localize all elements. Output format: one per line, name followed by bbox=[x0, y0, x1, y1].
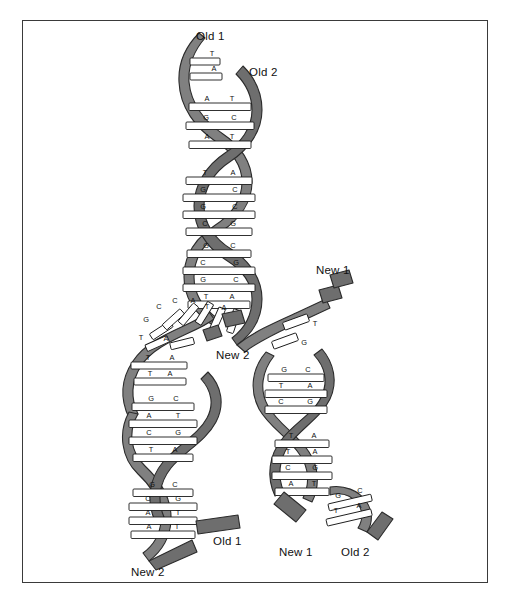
svg-text:G: G bbox=[200, 185, 206, 194]
svg-text:A: A bbox=[168, 369, 173, 378]
svg-text:A: A bbox=[205, 132, 210, 141]
svg-text:G: G bbox=[200, 275, 206, 284]
svg-text:T: T bbox=[204, 292, 209, 301]
svg-text:A: A bbox=[289, 479, 294, 488]
svg-text:A: A bbox=[146, 508, 151, 517]
svg-text:C: C bbox=[202, 219, 208, 228]
svg-text:C: C bbox=[145, 494, 151, 503]
label-new1-bottom: New 1 bbox=[279, 546, 313, 558]
svg-text:T: T bbox=[230, 94, 235, 103]
svg-text:A: A bbox=[231, 168, 236, 177]
svg-text:A: A bbox=[212, 64, 217, 73]
svg-text:C: C bbox=[230, 241, 236, 250]
label-old2-top: Old 2 bbox=[249, 66, 278, 78]
svg-text:A: A bbox=[170, 353, 175, 362]
svg-text:T: T bbox=[176, 508, 181, 517]
svg-text:C: C bbox=[156, 302, 162, 311]
svg-text:T: T bbox=[176, 411, 181, 420]
svg-text:T: T bbox=[175, 522, 180, 531]
svg-text:A: A bbox=[308, 381, 313, 390]
dna-replication-diagram: .rib { fill:#808080; stroke:#2b2b2b; str… bbox=[0, 0, 511, 616]
svg-text:G: G bbox=[335, 491, 341, 500]
svg-text:G: G bbox=[301, 338, 307, 347]
svg-text:A: A bbox=[312, 431, 317, 440]
svg-text:T: T bbox=[149, 445, 154, 454]
svg-text:C: C bbox=[172, 296, 178, 305]
svg-text:T: T bbox=[279, 381, 284, 390]
svg-text:A: A bbox=[147, 522, 152, 531]
svg-text:A: A bbox=[147, 411, 152, 420]
svg-text:C: C bbox=[200, 258, 206, 267]
svg-text:G: G bbox=[307, 397, 313, 406]
svg-text:G: G bbox=[281, 365, 287, 374]
svg-text:A: A bbox=[205, 94, 210, 103]
svg-text:G: G bbox=[149, 480, 155, 489]
svg-text:G: G bbox=[230, 219, 236, 228]
svg-text:A: A bbox=[313, 447, 318, 456]
label-old1-bottom: Old 1 bbox=[213, 535, 242, 547]
svg-text:A: A bbox=[164, 334, 169, 343]
svg-text:T: T bbox=[289, 431, 294, 440]
svg-text:C: C bbox=[146, 428, 152, 437]
svg-text:C: C bbox=[232, 202, 238, 211]
svg-text:G: G bbox=[203, 113, 209, 122]
svg-text:C: C bbox=[231, 113, 237, 122]
label-old2-bottom: Old 2 bbox=[341, 546, 370, 558]
svg-text:T: T bbox=[146, 353, 151, 362]
svg-text:A: A bbox=[191, 296, 196, 305]
svg-text:T: T bbox=[139, 333, 144, 342]
svg-text:A: A bbox=[357, 501, 362, 510]
svg-text:T: T bbox=[313, 319, 318, 328]
svg-text:C: C bbox=[173, 394, 179, 403]
svg-text:C: C bbox=[172, 480, 178, 489]
svg-text:T: T bbox=[205, 302, 210, 311]
svg-text:G: G bbox=[233, 258, 239, 267]
svg-text:G: G bbox=[143, 315, 149, 324]
svg-text:T: T bbox=[148, 369, 153, 378]
svg-text:C: C bbox=[305, 365, 311, 374]
svg-text:A: A bbox=[173, 445, 178, 454]
svg-text:T: T bbox=[286, 447, 291, 456]
svg-text:C: C bbox=[233, 275, 239, 284]
label-new1-right: New 1 bbox=[316, 264, 350, 276]
svg-text:G: G bbox=[148, 394, 154, 403]
svg-text:A: A bbox=[222, 303, 227, 312]
label-old1-top: Old 1 bbox=[196, 30, 225, 42]
label-new2-middle: New 2 bbox=[216, 349, 250, 361]
svg-text:G: G bbox=[312, 463, 318, 472]
svg-text:G: G bbox=[203, 241, 209, 250]
svg-text:C: C bbox=[285, 463, 291, 472]
label-new2-bottom: New 2 bbox=[131, 566, 165, 578]
svg-text:G: G bbox=[200, 202, 206, 211]
svg-text:T: T bbox=[312, 479, 317, 488]
svg-text:C: C bbox=[357, 486, 363, 495]
svg-text:T: T bbox=[334, 506, 339, 515]
svg-text:A: A bbox=[230, 292, 235, 301]
svg-text:T: T bbox=[203, 168, 208, 177]
svg-text:C: C bbox=[232, 185, 238, 194]
daughter-right-helix: GC TA CG TA TA CG AT GC TA bbox=[253, 349, 393, 540]
svg-text:G: G bbox=[175, 428, 181, 437]
svg-text:T: T bbox=[230, 132, 235, 141]
svg-text:G: G bbox=[175, 494, 181, 503]
svg-text:T: T bbox=[210, 49, 215, 58]
svg-text:C: C bbox=[278, 397, 284, 406]
